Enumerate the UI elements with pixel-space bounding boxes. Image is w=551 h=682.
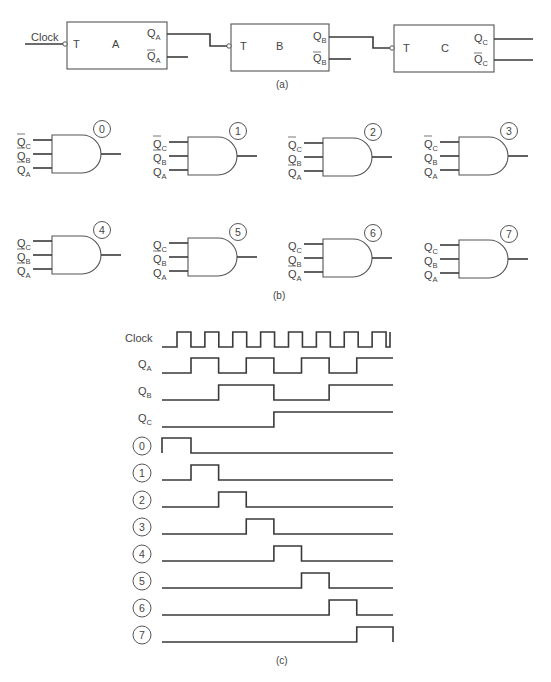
waveform-trace xyxy=(162,492,393,507)
gate-input-label: QC xyxy=(153,138,168,153)
waveform-trace xyxy=(162,465,393,480)
ff-c-name: C xyxy=(441,42,449,54)
timing-diagram: ClockQAQBQC01234567 xyxy=(125,332,393,644)
timing-row-qc: QC xyxy=(138,412,393,427)
waveform-trace xyxy=(162,332,390,347)
gate-input-label: QB xyxy=(17,150,31,165)
signal-label: Clock xyxy=(125,332,153,344)
inverted-clock-bubble-icon xyxy=(390,46,394,50)
decode-number: 0 xyxy=(139,440,145,452)
and-gate-icon xyxy=(323,138,372,176)
flip-flop-a: T A QA QA xyxy=(63,22,167,69)
and-gate-5: QCQBQA5 xyxy=(153,224,257,283)
gate-input-label: QB xyxy=(424,255,438,270)
decode-number: 5 xyxy=(139,575,145,587)
waveform-trace xyxy=(162,412,393,427)
decode-number: 7 xyxy=(139,629,145,641)
decode-number: 4 xyxy=(139,548,145,560)
decode-number: 2 xyxy=(139,494,145,506)
waveform-trace xyxy=(162,627,393,642)
caption-a: (a) xyxy=(276,79,288,90)
signal-label: QC xyxy=(138,412,153,427)
timing-row-decode-5: 5 xyxy=(133,572,393,590)
gate-input-label: QC xyxy=(288,240,303,255)
caption-c: (c) xyxy=(276,655,288,666)
decode-number: 1 xyxy=(139,467,145,479)
timing-row-decode-2: 2 xyxy=(133,491,393,509)
timing-row-qa: QA xyxy=(138,358,393,373)
gate-input-label: QB xyxy=(17,251,31,266)
waveform-trace xyxy=(162,358,393,373)
flip-flop-c: T C QC QC xyxy=(390,25,494,72)
gate-input-label: QC xyxy=(288,139,303,154)
decoder-gates: QCQBQA0QCQBQA1QCQBQA2QCQBQA3QCQBQA4QCQBQ… xyxy=(17,121,528,285)
timing-row-clock: Clock xyxy=(125,332,390,347)
and-gate-1: QCQBQA1 xyxy=(153,123,257,182)
gate-input-label: QA xyxy=(17,164,31,179)
gate-number: 4 xyxy=(99,224,105,236)
gate-number: 2 xyxy=(370,126,376,138)
gate-input-label: QA xyxy=(153,267,167,282)
gate-input-label: QA xyxy=(424,269,438,284)
timing-row-decode-7: 7 xyxy=(133,626,393,644)
gate-input-label: QA xyxy=(424,166,438,181)
decode-number: 6 xyxy=(139,602,145,614)
gate-number: 5 xyxy=(235,226,241,238)
gate-input-label: QB xyxy=(288,153,302,168)
and-gate-4: QCQBQA4 xyxy=(17,222,121,281)
ff-a-t-input: T xyxy=(73,38,80,50)
waveform-trace xyxy=(162,573,393,588)
and-gate-6: QCQBQA6 xyxy=(288,225,392,284)
qb-to-c-wire xyxy=(329,37,391,48)
timing-row-qb: QB xyxy=(138,385,393,400)
signal-label: QB xyxy=(138,385,152,400)
waveform-trace xyxy=(162,385,393,400)
and-gate-7: QCQBQA7 xyxy=(424,226,528,285)
waveform-trace xyxy=(162,600,393,615)
ff-b-t-input: T xyxy=(240,40,247,52)
qa-to-b-wire xyxy=(167,34,228,46)
gate-number: 7 xyxy=(506,228,512,240)
inverted-clock-bubble-icon xyxy=(227,44,231,48)
flip-flop-chain: Clock T A QA QA T B QB QB xyxy=(25,22,533,90)
gate-input-label: QC xyxy=(153,239,168,254)
ff-c-t-input: T xyxy=(403,42,410,54)
timing-row-decode-1: 1 xyxy=(133,464,393,482)
and-gate-0: QCQBQA0 xyxy=(17,121,121,180)
gate-input-label: QB xyxy=(288,254,302,269)
gate-input-label: QA xyxy=(17,265,31,280)
and-gate-3: QCQBQA3 xyxy=(424,123,528,182)
gate-number: 0 xyxy=(99,123,105,135)
gate-number: 3 xyxy=(506,125,512,137)
and-gate-icon xyxy=(323,239,372,277)
gate-input-label: QB xyxy=(153,152,167,167)
gate-number: 1 xyxy=(235,125,241,137)
waveform-trace xyxy=(162,438,393,453)
timing-row-decode-4: 4 xyxy=(133,545,393,563)
timing-row-decode-0: 0 xyxy=(133,437,393,455)
counter-decoder-diagram: Clock T A QA QA T B QB QB xyxy=(0,0,551,682)
ff-a-name: A xyxy=(112,38,120,50)
gate-input-label: QC xyxy=(424,241,439,256)
and-gate-icon xyxy=(52,135,101,173)
and-gate-icon xyxy=(188,238,237,276)
and-gate-icon xyxy=(459,137,508,175)
and-gate-icon xyxy=(459,240,508,278)
caption-b: (b) xyxy=(273,290,285,301)
gate-input-label: QA xyxy=(288,167,302,182)
gate-input-label: QB xyxy=(153,253,167,268)
gate-input-label: QB xyxy=(424,152,438,167)
gate-input-label: QC xyxy=(17,136,32,151)
gate-input-label: QC xyxy=(424,138,439,153)
gate-input-label: QA xyxy=(288,268,302,283)
signal-label: QA xyxy=(138,358,152,373)
gate-input-label: QA xyxy=(153,166,167,181)
and-gate-icon xyxy=(52,236,101,274)
decode-number: 3 xyxy=(139,521,145,533)
inverted-clock-bubble-icon xyxy=(63,42,67,46)
timing-row-decode-3: 3 xyxy=(133,518,393,536)
and-gate-icon xyxy=(188,137,237,175)
waveform-trace xyxy=(162,546,393,561)
ff-b-name: B xyxy=(276,40,283,52)
gate-input-label: QC xyxy=(17,237,32,252)
